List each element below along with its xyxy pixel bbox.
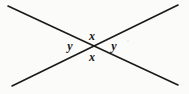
angle-label-x-top: x xyxy=(89,30,95,42)
diagram-canvas xyxy=(0,0,189,94)
angle-label-y-right: y xyxy=(111,40,116,52)
angle-label-y-left: y xyxy=(67,40,72,52)
angle-label-x-bottom: x xyxy=(89,51,95,63)
vertical-angles-figure: x y y x xyxy=(0,0,189,94)
scan-artifact-speck xyxy=(133,43,134,44)
scan-artifact-speck xyxy=(127,40,129,42)
